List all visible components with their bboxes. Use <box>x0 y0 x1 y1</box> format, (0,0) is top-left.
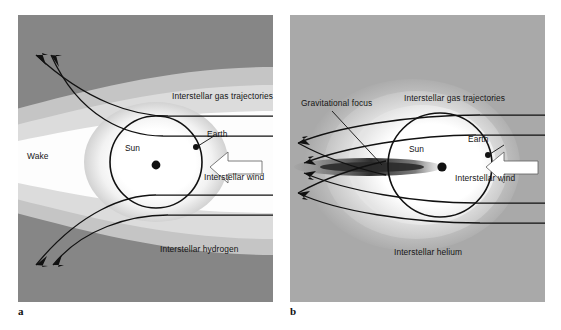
panel-b-trajectories-label: Interstellar gas trajectories <box>404 94 505 102</box>
panel-b-sun-label: Sun <box>409 144 424 154</box>
panel-a-marker: a <box>18 305 24 317</box>
panel-b-earth-label: Earth <box>468 135 489 143</box>
panel-a-medium-label: Interstellar hydrogen <box>160 245 238 253</box>
panel-a-wind-label: Interstellar wind <box>204 173 264 181</box>
panel-b-focus-label: Gravitational focus <box>301 99 372 107</box>
panel-a-hydrogen <box>18 15 273 302</box>
panel-a-earth-label: Earth <box>207 130 228 138</box>
earth-marker <box>485 152 491 158</box>
panel-a-sun-label: Sun <box>125 143 140 153</box>
earth-marker <box>193 144 199 150</box>
panel-b-wind-label: Interstellar wind <box>455 174 515 182</box>
panel-b-marker: b <box>290 305 296 317</box>
sun-marker <box>437 162 446 171</box>
panel-b-helium <box>290 15 545 302</box>
panel-a-trajectories-label: Interstellar gas trajectories <box>172 92 273 100</box>
panel-b-medium-label: Interstellar helium <box>394 248 462 256</box>
panel-a-wake-label: Wake <box>27 152 49 160</box>
panel-a-graphic <box>18 15 273 302</box>
sun-marker <box>152 161 161 170</box>
gravitational-focus-core <box>320 162 424 172</box>
panel-b-graphic <box>290 15 545 302</box>
figure-canvas: Interstellar gas trajectories Earth Sun … <box>0 0 561 330</box>
